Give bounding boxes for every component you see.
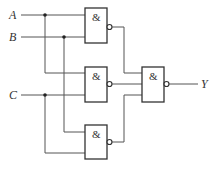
gate-symbol: & bbox=[92, 11, 101, 23]
inversion-bubble-icon bbox=[107, 140, 112, 145]
input-label-b: B bbox=[9, 30, 17, 44]
wire-a-branch bbox=[45, 15, 85, 73]
wire-g1-to-g4 bbox=[112, 27, 142, 73]
input-label-c: C bbox=[9, 88, 18, 102]
nand-gate-1: & bbox=[85, 8, 112, 43]
output-label-y: Y bbox=[201, 77, 209, 91]
nand-gate-3: & bbox=[85, 125, 112, 159]
nand-gate-2: & bbox=[85, 67, 112, 102]
gate-symbol: & bbox=[92, 128, 101, 140]
junction-dot-c bbox=[43, 93, 47, 97]
input-wires bbox=[21, 15, 85, 153]
gate-symbol: & bbox=[149, 70, 158, 82]
gate-symbol: & bbox=[92, 70, 101, 82]
inversion-bubble-icon bbox=[164, 82, 169, 87]
intermediate-wires bbox=[112, 27, 142, 142]
input-label-a: A bbox=[8, 8, 17, 22]
wire-b-branch bbox=[64, 37, 85, 132]
logic-circuit-diagram: A B C & & & & bbox=[0, 0, 213, 173]
junction-dot-a bbox=[43, 13, 47, 17]
nand-gate-4: & bbox=[142, 67, 169, 102]
inversion-bubble-icon bbox=[107, 25, 112, 30]
inversion-bubble-icon bbox=[107, 82, 112, 87]
wire-g3-to-g4 bbox=[112, 95, 142, 142]
junction-dot-b bbox=[62, 35, 66, 39]
wire-c-branch bbox=[45, 95, 85, 153]
